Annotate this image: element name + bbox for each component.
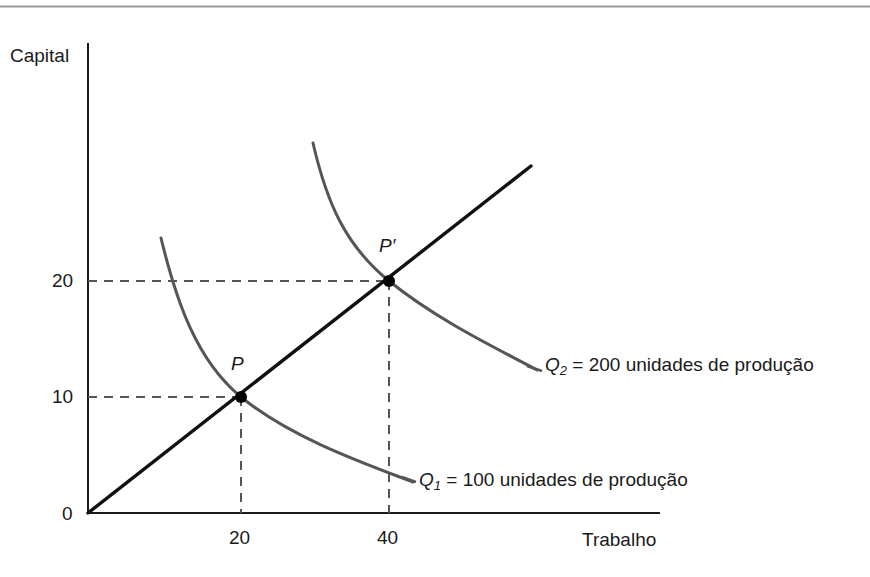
curve-label-q1-units: unidades de produção [500,469,688,490]
curve-label-q1: Q1 = 100 unidades de produção [419,470,688,492]
x-tick-label-20: 20 [229,528,250,547]
expansion-path-ray [88,166,531,513]
curve-label-q1-value: 100 [463,469,495,490]
curve-label-q1-symbol: Q [419,469,434,490]
point-label-p-prime: P′ [379,236,395,255]
curve-label-q2-value: 200 [589,354,621,375]
curve-label-q2-equals: = [572,354,583,375]
point-label-p: P [231,354,244,373]
x-axis-title: Trabalho [582,530,656,549]
point-marker-p-prime [383,275,395,287]
y-axis-title: Capital [10,46,69,65]
y-tick-label-20: 20 [52,271,73,290]
origin-label: 0 [62,504,73,523]
curve-label-q2: Q2 = 200 unidades de produção [545,355,814,377]
point-marker-p [235,391,247,403]
y-tick-label-10: 10 [52,387,73,406]
isoquant-figure: Capital Trabalho 0 20 10 20 40 P P′ Q1 =… [0,0,870,577]
x-tick-label-40: 40 [377,528,398,547]
isoquant-curve-q2 [313,143,537,370]
isoquant-curve-q1 [161,238,413,482]
curve-label-q2-subscript: 2 [560,363,567,378]
curve-label-q2-symbol: Q [545,354,560,375]
curve-label-q2-units: unidades de produção [626,354,814,375]
curve-label-q1-subscript: 1 [434,478,441,493]
curve-label-q1-equals: = [446,469,457,490]
